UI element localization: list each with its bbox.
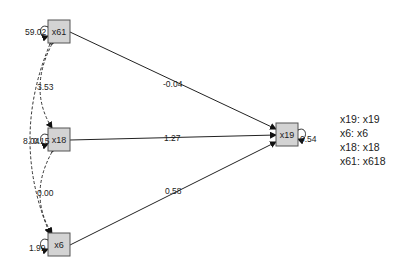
node-label: x19 bbox=[280, 130, 295, 140]
node-label: x61 bbox=[52, 27, 67, 37]
path-label-x61-x19: -0.04 bbox=[163, 79, 183, 89]
node-x6[interactable]: x6 bbox=[48, 233, 70, 256]
legend-item: x19: x19 bbox=[340, 112, 386, 126]
legend: x19: x19 x6: x6 x18: x18 x61: x618 bbox=[340, 112, 386, 168]
node-label: x18 bbox=[52, 135, 67, 145]
legend-item: x6: x6 bbox=[340, 126, 386, 140]
node-x61[interactable]: x61 bbox=[48, 20, 70, 43]
variance-label-x19: 0.54 bbox=[300, 134, 317, 144]
variance-label-x61: 59.02 bbox=[25, 27, 47, 37]
cov-label-x61-x6: 8.04 bbox=[23, 136, 40, 146]
path-label-x18-x19: 1.27 bbox=[164, 133, 181, 143]
path-label-x6-x19: 0.58 bbox=[165, 186, 182, 196]
legend-item: x18: x18 bbox=[340, 140, 386, 154]
legend-item: x61: x618 bbox=[340, 154, 386, 168]
variance-label-x6: 1.99 bbox=[29, 243, 46, 253]
node-x18[interactable]: x18 bbox=[48, 128, 70, 151]
node-label: x6 bbox=[54, 240, 64, 250]
node-x19[interactable]: x19 bbox=[276, 123, 298, 146]
cov-label-x61-x18: 3.53 bbox=[37, 82, 54, 92]
cov-label-x18-x6: 0.00 bbox=[37, 188, 54, 198]
